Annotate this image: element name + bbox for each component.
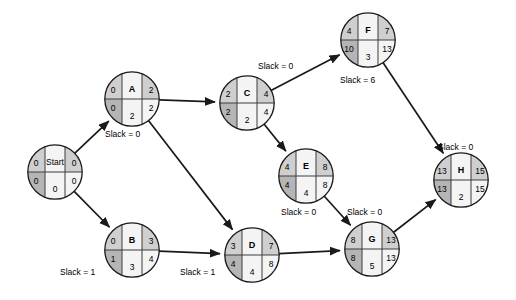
node-c[interactable]: 2C4224	[219, 75, 275, 131]
edge-d-to-g	[279, 251, 340, 254]
node-e-lf: 8	[316, 181, 334, 190]
network-diagram-canvas: 0Start00000A20220B31342C42243D74484E8448…	[0, 0, 516, 300]
node-b-ef: 3	[142, 237, 160, 246]
node-start-ls: 0	[27, 177, 45, 186]
node-d-ls: 4	[224, 260, 242, 269]
node-f[interactable]: 4F710313	[340, 12, 396, 68]
node-start[interactable]: 0Start0000	[27, 144, 83, 200]
node-a-lf: 2	[142, 104, 160, 113]
slack-label-c: Slack = 0	[258, 62, 293, 71]
node-c-duration: 2	[237, 116, 257, 125]
node-b[interactable]: 0B3134	[104, 222, 160, 278]
slack-label-h: Slack = 0	[438, 143, 473, 152]
edge-a-to-c	[159, 100, 215, 102]
node-h-lf: 15	[471, 185, 489, 194]
edge-f-to-h	[383, 62, 443, 153]
node-start-ef: 0	[65, 159, 83, 168]
edge-b-to-d	[159, 251, 220, 254]
node-d-lf: 8	[262, 260, 280, 269]
slack-label-d: Slack = 1	[180, 268, 215, 277]
node-c-lf: 4	[257, 108, 275, 117]
slack-label-a: Slack = 0	[105, 130, 140, 139]
node-e-ls: 4	[278, 181, 296, 190]
node-g-ef: 13	[382, 236, 400, 245]
node-h[interactable]: 13H1513215	[433, 152, 489, 208]
node-b-lf: 4	[142, 255, 160, 264]
slack-label-e: Slack = 0	[281, 208, 316, 217]
edge-a-to-d	[148, 120, 232, 229]
node-a-duration: 2	[122, 112, 142, 121]
node-b-duration: 3	[122, 263, 142, 272]
slack-label-f: Slack = 6	[340, 76, 375, 85]
node-c-ls: 2	[219, 108, 237, 117]
node-h-ls: 13	[433, 185, 451, 194]
node-h-duration: 2	[451, 193, 471, 202]
node-g-lf: 13	[382, 254, 400, 263]
node-d[interactable]: 3D7448	[224, 227, 280, 283]
node-b-ls: 1	[104, 255, 122, 264]
node-e-duration: 4	[296, 189, 316, 198]
node-g[interactable]: 8G138513	[344, 221, 400, 277]
node-f-ls: 10	[340, 45, 358, 54]
slack-label-g: Slack = 0	[347, 208, 382, 217]
node-f-ef: 7	[378, 27, 396, 36]
node-start-lf: 0	[65, 177, 83, 186]
node-d-ef: 7	[262, 242, 280, 251]
node-e-ef: 8	[316, 163, 334, 172]
node-a-ef: 2	[142, 86, 160, 95]
node-a[interactable]: 0A2022	[104, 71, 160, 127]
node-f-lf: 13	[378, 45, 396, 54]
node-g-duration: 5	[362, 262, 382, 271]
slack-label-b: Slack = 1	[60, 268, 95, 277]
node-start-duration: 0	[45, 185, 65, 194]
node-f-duration: 3	[358, 53, 378, 62]
node-g-ls: 8	[344, 254, 362, 263]
node-c-ef: 4	[257, 90, 275, 99]
node-a-ls: 0	[104, 104, 122, 113]
node-h-ef: 15	[471, 167, 489, 176]
node-e[interactable]: 4E8448	[278, 148, 334, 204]
node-d-duration: 4	[242, 268, 262, 277]
